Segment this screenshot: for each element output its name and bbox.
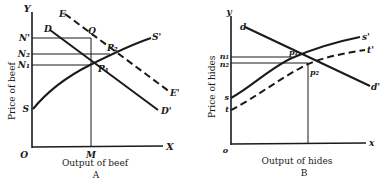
y-axis-title-a: Price of beef	[7, 62, 17, 120]
s-prime-label-a: S'	[152, 32, 161, 42]
origin-label-a: O	[20, 150, 28, 160]
x-axis-title-a: Output of beef	[62, 158, 129, 168]
d-prime-label-a: D'	[160, 106, 172, 116]
y-axis-label-a: Y	[23, 3, 31, 14]
n-prime-label: N'	[18, 33, 30, 43]
x-axis-label-b: x	[368, 138, 375, 148]
panel-a: Y X O M N' N₂ N₁ S D E Q P₂ P₁ S' E' D' …	[7, 3, 180, 180]
d-label-a: D	[43, 24, 52, 34]
t-prime-label-b: t'	[367, 45, 374, 55]
t-label-b: t	[225, 104, 229, 114]
n2-label-b: n₂	[220, 59, 230, 69]
supply-curve-s	[33, 38, 151, 109]
q-label: Q	[88, 26, 96, 36]
p2-label-b: p₂	[310, 67, 320, 77]
y-axis-label-b: y	[225, 7, 232, 17]
y-axis-title-b: Price of hides	[207, 55, 217, 118]
d-label-b: d	[240, 22, 247, 32]
x-axis-b	[231, 143, 366, 144]
caption-a: A	[92, 170, 100, 180]
p1-label-a: P₁	[97, 64, 109, 74]
e-prime-label: E'	[169, 88, 180, 98]
p2-label-a: P₂	[106, 43, 118, 53]
e-label-a: E	[58, 9, 66, 19]
origin-label-b: o	[223, 145, 229, 155]
panel-b: y x o n₁ n₂ s t d p₁ p₂ s' t' d' Price o…	[207, 7, 380, 178]
n2-label: N₂	[17, 49, 30, 59]
x-axis-title-b: Output of hides	[262, 156, 333, 166]
x-axis-label-a: X	[165, 141, 175, 152]
d-prime-label-b: d'	[371, 82, 380, 92]
supply-demand-diagrams: Y X O M N' N₂ N₁ S D E Q P₂ P₁ S' E' D' …	[0, 0, 384, 185]
s-prime-label-b: s'	[362, 32, 370, 42]
p1-label-b: p₁	[289, 47, 298, 57]
caption-b: B	[301, 168, 308, 178]
x-axis-a	[32, 146, 163, 147]
s-label-a: S	[23, 104, 30, 114]
s-label-b: s	[224, 92, 229, 102]
supply-curve-t-dashed	[231, 50, 365, 110]
n1-label: N₁	[17, 60, 30, 70]
